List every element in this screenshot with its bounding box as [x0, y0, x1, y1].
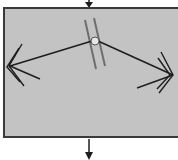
input-arrow [85, 0, 93, 8]
diagram-canvas [0, 0, 178, 160]
contact-point [91, 37, 99, 45]
output-arrow [85, 139, 93, 160]
panel [4, 8, 178, 137]
